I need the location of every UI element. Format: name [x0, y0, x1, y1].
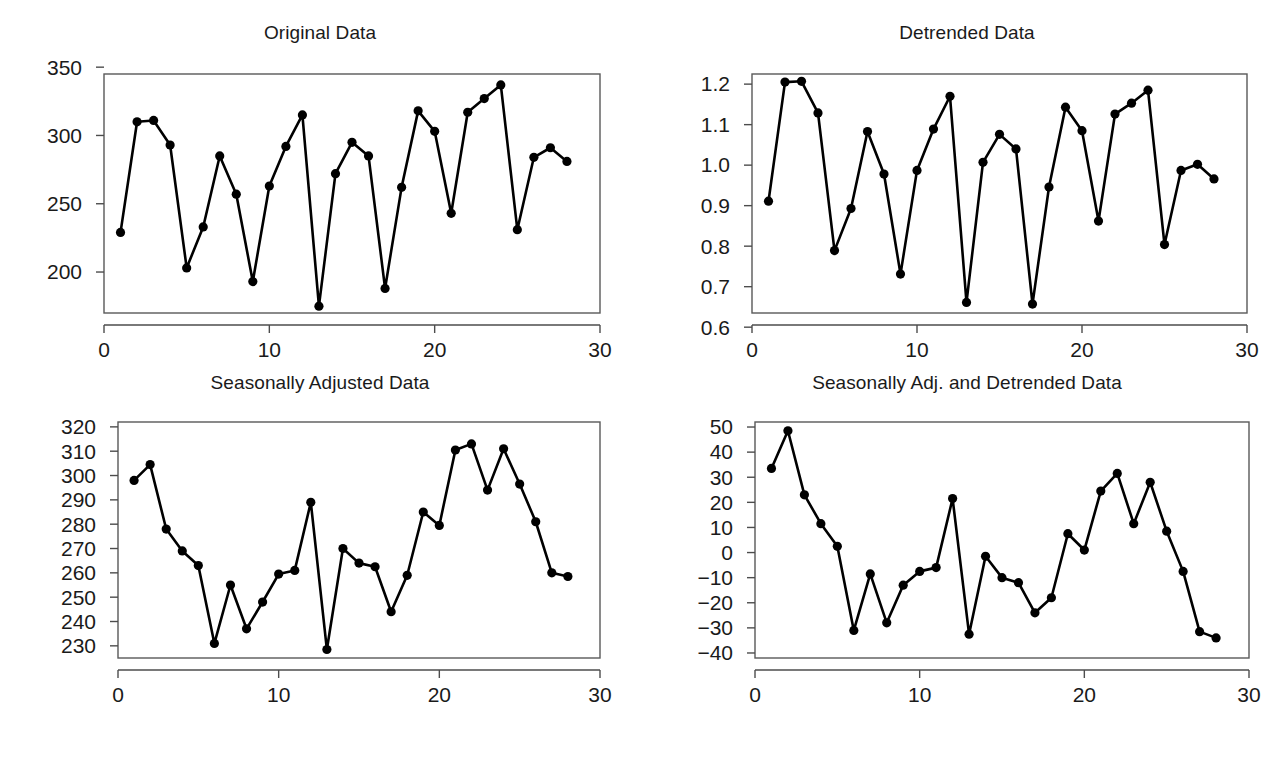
data-point [146, 460, 155, 469]
x-tick-label: 0 [98, 338, 110, 361]
y-tick-label: −30 [697, 616, 733, 639]
y-tick-label: 250 [61, 586, 96, 609]
data-point [899, 581, 908, 590]
data-point [364, 151, 373, 160]
data-point [513, 225, 522, 234]
y-tick-label: −10 [697, 566, 733, 589]
data-point [166, 140, 175, 149]
data-point [1179, 567, 1188, 576]
data-point [1011, 144, 1020, 153]
data-point [419, 507, 428, 516]
data-point [480, 94, 489, 103]
data-point [129, 476, 138, 485]
data-point [945, 92, 954, 101]
data-point [1193, 160, 1202, 169]
y-tick-label: 310 [61, 440, 96, 463]
x-tick-label: 10 [258, 338, 281, 361]
data-point [563, 572, 572, 581]
data-point [1110, 110, 1119, 119]
data-point [816, 519, 825, 528]
y-tick-label: 300 [61, 464, 96, 487]
data-point [347, 138, 356, 147]
y-tick-label: 0.7 [701, 275, 730, 298]
data-point [863, 127, 872, 136]
data-point [149, 116, 158, 125]
y-tick-label: 0 [721, 541, 733, 564]
data-point [162, 524, 171, 533]
x-tick-label: 20 [1073, 683, 1096, 706]
y-tick-label: −20 [697, 591, 733, 614]
data-point [882, 618, 891, 627]
data-point [813, 108, 822, 117]
data-point [929, 124, 938, 133]
data-point [1096, 486, 1105, 495]
data-point [797, 77, 806, 86]
data-point [1195, 627, 1204, 636]
data-point [1160, 240, 1169, 249]
data-point [529, 153, 538, 162]
y-tick-label: 1.0 [701, 153, 730, 176]
y-tick-label: 50 [710, 415, 733, 438]
data-point [435, 521, 444, 530]
data-point [380, 284, 389, 293]
data-point [1211, 633, 1220, 642]
data-point [226, 580, 235, 589]
y-tick-label: 250 [47, 192, 82, 215]
data-point [1143, 86, 1152, 95]
data-point [1146, 478, 1155, 487]
y-tick-label: 20 [710, 491, 733, 514]
data-point [258, 597, 267, 606]
data-point [764, 197, 773, 206]
data-point [242, 624, 251, 633]
data-point [1129, 519, 1138, 528]
x-tick-label: 10 [267, 683, 290, 706]
data-point [1209, 174, 1218, 183]
data-point [1030, 608, 1039, 617]
y-tick-label: 200 [47, 260, 82, 283]
figure-canvas: Original Data 2002503003500102030 Detren… [0, 0, 1287, 757]
data-point [132, 117, 141, 126]
series-line [134, 444, 568, 650]
data-point [780, 78, 789, 87]
x-tick-label: 10 [908, 683, 931, 706]
x-tick-label: 10 [905, 338, 928, 361]
data-point [322, 645, 331, 654]
data-point [896, 270, 905, 279]
data-point [298, 110, 307, 119]
x-tick-label: 20 [428, 683, 451, 706]
data-point [281, 142, 290, 151]
data-point [248, 277, 257, 286]
data-point [274, 569, 283, 578]
data-point [833, 542, 842, 551]
x-tick-label: 0 [749, 683, 761, 706]
data-point [846, 204, 855, 213]
y-tick-label: −40 [697, 641, 733, 664]
series-line [769, 81, 1215, 304]
y-tick-label: 0.8 [701, 235, 730, 258]
data-point [463, 108, 472, 117]
data-point [496, 80, 505, 89]
data-point [800, 490, 809, 499]
series-line [121, 85, 567, 306]
plot-detrended-data: 0.60.70.80.91.01.11.20102030 [647, 22, 1287, 367]
data-point [1080, 545, 1089, 554]
data-point [290, 566, 299, 575]
y-tick-label: 260 [61, 561, 96, 584]
data-point [215, 151, 224, 160]
data-point [546, 143, 555, 152]
data-point [265, 181, 274, 190]
data-point [1047, 593, 1056, 602]
panel-detrended-data: Detrended Data 0.60.70.80.91.01.11.20102… [647, 22, 1287, 367]
data-point [182, 263, 191, 272]
x-tick-label: 20 [1070, 338, 1093, 361]
data-point [331, 169, 340, 178]
data-point [1176, 166, 1185, 175]
data-point [1162, 527, 1171, 536]
y-tick-label: 270 [61, 537, 96, 560]
data-point [430, 127, 439, 136]
data-point [397, 183, 406, 192]
data-point [199, 222, 208, 231]
x-tick-label: 20 [423, 338, 446, 361]
y-tick-label: 240 [61, 610, 96, 633]
data-point [483, 486, 492, 495]
